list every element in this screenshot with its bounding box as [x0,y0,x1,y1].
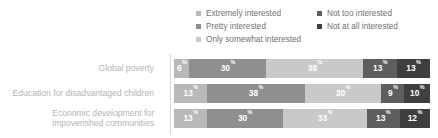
bar-segment-percent-sign: % [193,84,198,90]
chart-legend: Extremely interested Pretty interested O… [196,8,436,47]
bar-segment: 30% [189,59,266,78]
category-label: Education for disadvantaged children [0,88,162,99]
bar-segment-percent-sign: % [248,109,253,115]
bar-segment-percent-sign: % [417,109,422,115]
bar-segment-percent-sign: % [182,59,187,65]
bar-segment-value: 38% [308,59,322,78]
stacked-bar: 6%30%38%13%13% [174,59,430,78]
bar-segment: 38% [207,84,304,103]
legend-label: Pretty interested [206,21,266,32]
legend-swatch-icon [317,24,322,29]
chart-row: Education for disadvantaged children 13%… [0,83,438,103]
legend-item-not-at-all-interested[interactable]: Not at all interested [317,21,436,32]
bar-segment-percent-sign: % [393,84,398,90]
bar-segment-percent-sign: % [383,59,388,65]
bar-segment-value: 10% [410,84,424,103]
stacked-bar: 13%30%33%13%12% [174,109,430,128]
legend-swatch-icon [196,37,201,42]
legend-swatch-icon [196,11,201,16]
category-label-line: Global poverty [0,63,154,74]
bar-segment-value: 9% [388,84,397,103]
bar-segment-value: 13% [406,59,420,78]
bar-segment-value: 30% [221,59,235,78]
chart-plot-area: Global poverty 6%30%38%13%13% Education … [0,52,438,138]
bar-segment: 10% [404,84,430,103]
bar-segment-percent-sign: % [346,84,351,90]
legend-swatch-icon [196,24,201,29]
bar-segment-percent-sign: % [230,59,235,65]
legend-column-right: Not too interested Not at all interested [317,8,436,34]
bar-segment-value: 13% [184,84,198,103]
legend-item-extremely-interested[interactable]: Extremely interested [196,8,317,19]
chart-row: Economic development forimpoverished com… [0,108,438,128]
legend-label: Not too interested [327,8,392,19]
bar-segment: 9% [381,84,404,103]
bar-segment-percent-sign: % [327,109,332,115]
bar-segment-percent-sign: % [386,109,391,115]
legend-item-pretty-interested[interactable]: Pretty interested [196,21,317,32]
bar-segment: 13% [174,84,207,103]
bar-segment-percent-sign: % [420,84,425,90]
bar-segment-value: 30% [336,84,350,103]
legend-item-not-too-interested[interactable]: Not too interested [317,8,436,19]
category-label-line: impoverished communities [0,118,154,129]
bar-segment: 13% [367,109,400,128]
legend-item-only-somewhat-interested[interactable]: Only somewhat interested [196,34,317,45]
legend-swatch-icon [317,11,322,16]
category-label-line: Education for disadvantaged children [0,88,154,99]
bar-segment: 13% [363,59,396,78]
bar-segment: 12% [400,109,430,128]
bar-segment-value: 38% [249,84,263,103]
bar-segment-value: 33% [318,109,332,128]
bar-segment-percent-sign: % [416,59,421,65]
bar-segment: 38% [266,59,363,78]
bar-segment: 6% [174,59,189,78]
bar-segment-value: 6% [177,59,186,78]
legend-column-left: Extremely interested Pretty interested O… [196,8,317,47]
bar-segment: 30% [305,84,382,103]
bar-segment-percent-sign: % [193,109,198,115]
category-label-line: Economic development for [0,108,154,119]
bar-segment-value: 12% [408,109,422,128]
bar-segment-value: 13% [183,109,197,128]
bar-segment-value: 13% [376,109,390,128]
bar-segment: 13% [397,59,430,78]
legend-label: Only somewhat interested [206,34,301,45]
legend-label: Extremely interested [206,8,281,19]
stacked-bar: 13%38%30%9%10% [174,84,430,103]
chart-row: Global poverty 6%30%38%13%13% [0,58,438,78]
category-label: Global poverty [0,63,162,74]
bar-segment-percent-sign: % [259,84,264,90]
category-label: Economic development forimpoverished com… [0,108,162,129]
bar-segment: 30% [207,109,283,128]
legend-label: Not at all interested [327,21,398,32]
bar-segment: 33% [283,109,367,128]
bar-segment-percent-sign: % [317,59,322,65]
bar-segment: 13% [174,109,207,128]
bar-segment-value: 30% [238,109,252,128]
bar-segment-value: 13% [373,59,387,78]
